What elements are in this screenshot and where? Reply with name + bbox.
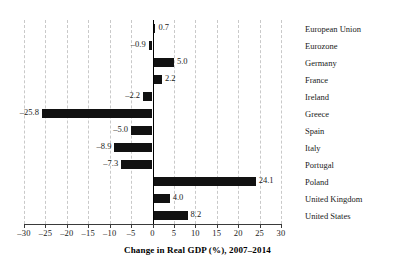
bar bbox=[153, 194, 170, 203]
bar-value-label: 4.0 bbox=[173, 191, 184, 204]
gdp-change-bar-chart: 0.7–0.95.02.2–2.2–25.8–5.0–8.9–7.324.14.… bbox=[0, 0, 395, 268]
x-axis-tick-label: –10 bbox=[103, 228, 116, 238]
bar-value-label: –0.9 bbox=[131, 38, 146, 51]
category-label-greece: Greece bbox=[305, 108, 329, 120]
x-axis-tick-label: –20 bbox=[60, 228, 73, 238]
category-label-united-kingdom: United Kingdom bbox=[305, 193, 362, 205]
gridline bbox=[281, 20, 282, 224]
bar-value-label: –2.2 bbox=[125, 89, 140, 102]
bar bbox=[153, 211, 188, 220]
bar bbox=[42, 109, 153, 118]
bar-value-label: 0.7 bbox=[158, 21, 169, 34]
x-axis-tick-label: 10 bbox=[191, 228, 200, 238]
x-axis-tick-label: –15 bbox=[82, 228, 95, 238]
bar bbox=[143, 92, 152, 101]
bar bbox=[153, 177, 256, 186]
bar-value-label: 24.1 bbox=[259, 174, 274, 187]
category-label-eurozone: Eurozone bbox=[305, 40, 338, 52]
category-label-ireland: Ireland bbox=[305, 91, 329, 103]
x-axis-tick-label: 25 bbox=[255, 228, 264, 238]
bar-value-label: –25.8 bbox=[20, 106, 39, 119]
bar-value-label: –5.0 bbox=[113, 123, 128, 136]
x-axis-tick-label: 5 bbox=[172, 228, 176, 238]
plot-area: 0.7–0.95.02.2–2.2–25.8–5.0–8.9–7.324.14.… bbox=[24, 20, 281, 224]
category-label-germany: Germany bbox=[305, 57, 337, 69]
x-axis-tick-label: 20 bbox=[234, 228, 243, 238]
x-axis-tick-label: 15 bbox=[212, 228, 221, 238]
x-axis-title: Change in Real GDP (%), 2007–2014 bbox=[0, 245, 395, 255]
bar-value-label: –7.3 bbox=[103, 157, 118, 170]
category-label-italy: Italy bbox=[305, 142, 321, 154]
x-axis-tick-label: 30 bbox=[277, 228, 286, 238]
bar-value-label: –8.9 bbox=[97, 140, 112, 153]
zero-axis-line bbox=[153, 20, 154, 224]
bar bbox=[114, 143, 152, 152]
bar-value-label: 5.0 bbox=[177, 55, 188, 68]
bar-value-label: 2.2 bbox=[165, 72, 176, 85]
category-label-united-states: United States bbox=[305, 210, 351, 222]
category-label-european-union: European Union bbox=[305, 23, 361, 35]
x-axis-tick-label: 0 bbox=[150, 228, 154, 238]
category-label-france: France bbox=[305, 74, 328, 86]
x-axis-tick-label: –30 bbox=[17, 228, 30, 238]
category-label-poland: Poland bbox=[305, 176, 329, 188]
bar bbox=[153, 75, 162, 84]
category-label-spain: Spain bbox=[305, 125, 324, 137]
bar bbox=[153, 58, 174, 67]
category-label-portugal: Portugal bbox=[305, 159, 334, 171]
bar bbox=[121, 160, 152, 169]
x-axis-tick-label: –5 bbox=[127, 228, 136, 238]
bar bbox=[131, 126, 152, 135]
bar-value-label: 8.2 bbox=[191, 208, 202, 221]
x-axis-tick-label: –25 bbox=[39, 228, 52, 238]
